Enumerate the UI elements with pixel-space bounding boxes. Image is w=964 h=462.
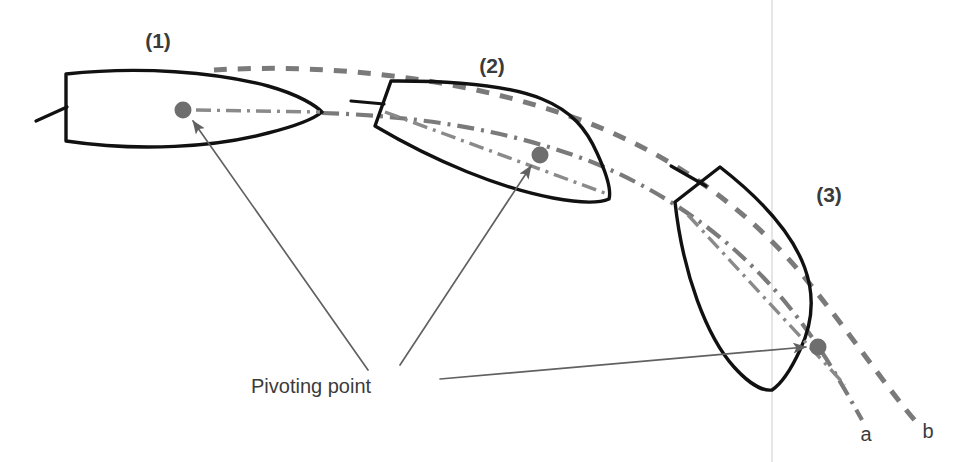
track-a-label: a — [860, 423, 872, 445]
ship-1-hull — [66, 70, 322, 147]
track-b-dashed-curve — [214, 68, 918, 424]
position-label-2: (2) — [479, 54, 505, 77]
ship-1 — [36, 70, 322, 147]
track-a-dashdot-curve — [322, 113, 862, 420]
ship-2-rudder — [351, 101, 384, 104]
leader-to-ship-2-pivot — [400, 166, 531, 365]
ship-1-rudder — [36, 107, 67, 121]
ship-2-pivot-point — [532, 147, 549, 164]
position-label-3: (3) — [816, 183, 842, 206]
ship-1-pivot-point — [175, 102, 192, 119]
leader-to-ship-1-pivot — [193, 121, 368, 370]
ship-pivot-diagram: (1) (2) (3) a b Pivoting point — [0, 0, 964, 462]
leader-to-ship-3-pivot — [440, 347, 806, 379]
ship-3-pivot-point — [810, 339, 827, 356]
position-label-1: (1) — [145, 29, 171, 52]
ship-1-centerline — [196, 110, 320, 112]
pivoting-point-label: Pivoting point — [251, 375, 372, 397]
ship-2 — [351, 81, 610, 202]
diagram-canvas: (1) (2) (3) a b Pivoting point — [0, 0, 964, 462]
ship-2-hull — [375, 81, 610, 202]
track-b-label: b — [922, 420, 933, 442]
